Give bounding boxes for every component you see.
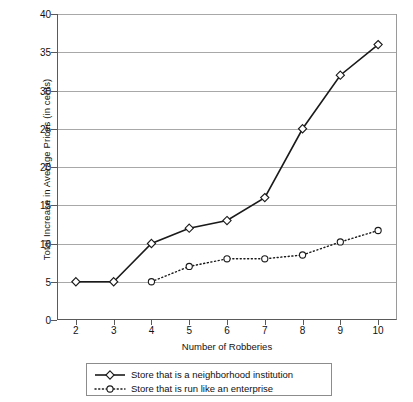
y-axis-tick-label: 40 xyxy=(11,9,51,20)
x-axis-tick-label: 2 xyxy=(64,325,88,336)
data-point-marker xyxy=(299,252,305,258)
legend-item: Store that is run like an enterprise xyxy=(93,382,325,395)
y-axis-tick-mark xyxy=(51,320,57,321)
y-axis-tick-label: 5 xyxy=(11,276,51,287)
legend-label: Store that is a neighborhood institution xyxy=(131,369,293,380)
y-axis-tick-label: 25 xyxy=(11,123,51,134)
data-point-marker xyxy=(224,256,230,262)
data-point-marker xyxy=(148,279,154,285)
legend-diamond-icon xyxy=(93,369,127,381)
data-series xyxy=(148,227,381,284)
legend-circle-icon xyxy=(93,383,127,395)
x-axis-title: Number of Robberies xyxy=(57,341,397,352)
series-layer xyxy=(57,14,397,320)
x-axis-tick-label: 3 xyxy=(102,325,126,336)
y-axis-tick-label: 15 xyxy=(11,200,51,211)
y-axis-tick-label: 30 xyxy=(11,85,51,96)
line-chart-figure: Total Increase in Average Prices (in cen… xyxy=(0,0,413,402)
x-axis-tick-label: 9 xyxy=(328,325,352,336)
data-point-marker xyxy=(223,216,231,224)
x-axis-tick-label: 7 xyxy=(253,325,277,336)
legend-item: Store that is a neighborhood institution xyxy=(93,368,325,381)
data-point-marker xyxy=(185,224,193,232)
x-axis-tick-label: 6 xyxy=(215,325,239,336)
y-axis-tick-label: 0 xyxy=(11,315,51,326)
data-series xyxy=(72,41,382,286)
x-axis-tick-label: 4 xyxy=(139,325,163,336)
y-axis-tick-label: 20 xyxy=(11,162,51,173)
x-axis-tick-label: 8 xyxy=(291,325,315,336)
data-point-marker xyxy=(375,227,381,233)
x-axis-tick-label: 10 xyxy=(366,325,390,336)
legend-label: Store that is run like an enterprise xyxy=(131,383,273,394)
data-point-marker xyxy=(337,239,343,245)
chart-legend: Store that is a neighborhood institution… xyxy=(86,363,332,396)
data-point-marker xyxy=(261,194,269,202)
x-axis-tick-label: 5 xyxy=(177,325,201,336)
y-axis-tick-label: 35 xyxy=(11,47,51,58)
data-point-marker xyxy=(72,278,80,286)
data-point-marker xyxy=(262,256,268,262)
data-point-marker xyxy=(186,263,192,269)
y-axis-tick-label: 10 xyxy=(11,238,51,249)
series-line xyxy=(76,45,378,282)
